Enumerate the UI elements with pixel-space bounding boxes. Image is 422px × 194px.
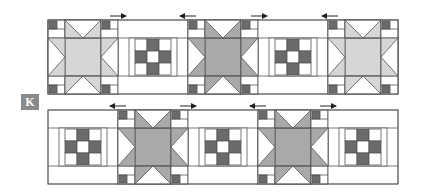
corner-square [329, 21, 337, 29]
corner-square [189, 85, 197, 93]
corner-square [312, 111, 320, 119]
corner-square [102, 85, 110, 93]
corner-square [102, 21, 110, 29]
corner-square [382, 21, 390, 29]
corner-square [259, 175, 267, 183]
quilt-diagram [0, 0, 422, 194]
corner-square [329, 85, 337, 93]
corner-square [242, 85, 250, 93]
corner-square [172, 111, 180, 119]
bottom-row [48, 110, 398, 184]
corner-square [49, 85, 57, 93]
corner-square [382, 85, 390, 93]
corner-square [119, 111, 127, 119]
corner-square [119, 175, 127, 183]
corner-square [242, 21, 250, 29]
corner-square [172, 175, 180, 183]
top-row [48, 20, 398, 94]
corner-square [49, 21, 57, 29]
corner-square [259, 111, 267, 119]
corner-square [189, 21, 197, 29]
corner-square [312, 175, 320, 183]
